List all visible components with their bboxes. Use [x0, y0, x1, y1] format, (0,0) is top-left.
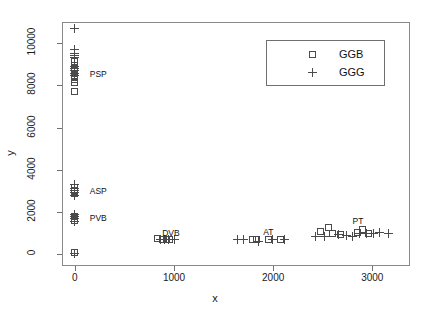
y-tick-label: 6000 [26, 103, 37, 149]
cluster-label-psp: PSP [90, 69, 107, 79]
data-point-ggg [320, 232, 329, 241]
y-tick-mark [57, 43, 62, 44]
data-point-ggb [71, 88, 78, 95]
data-point-ggg [70, 53, 79, 62]
data-point-ggg [375, 228, 384, 237]
data-point-ggg [280, 235, 289, 244]
legend: GGB GGG [266, 40, 385, 86]
y-tick-mark [57, 212, 62, 213]
y-tick-label: 2000 [26, 187, 37, 233]
y-tick-mark [57, 85, 62, 86]
y-tick-label: 4000 [26, 145, 37, 191]
square-icon [307, 46, 319, 64]
legend-label-ggg: GGG [339, 66, 365, 78]
data-point-ggg [239, 235, 248, 244]
y-tick-mark [57, 254, 62, 255]
y-tick-mark [57, 170, 62, 171]
x-tick-label: 3000 [349, 272, 395, 283]
data-point-ggg [70, 191, 79, 200]
cluster-label-pt: PT [352, 216, 363, 226]
x-axis-label: x [0, 292, 430, 304]
x-tick-mark [372, 266, 373, 271]
data-point-ggg [70, 71, 79, 80]
x-tick-label: 0 [52, 272, 98, 283]
x-tick-label: 2000 [250, 272, 296, 283]
plus-icon [307, 64, 319, 82]
y-tick-label: 10000 [26, 19, 37, 65]
x-tick-mark [174, 266, 175, 271]
x-tick-label: 1000 [151, 272, 197, 283]
cluster-label-pvb: PVB [90, 213, 107, 223]
x-tick-mark [273, 266, 274, 271]
data-point-ggg [254, 237, 263, 246]
y-tick-label: 8000 [26, 61, 37, 107]
cluster-label-dvb: DVB [162, 228, 179, 238]
data-point-ggg [70, 24, 79, 33]
y-tick-mark [57, 128, 62, 129]
data-point-ggg [70, 249, 79, 258]
scatter-plot: 0200040006000800010000 0100020003000 PSP… [0, 0, 430, 317]
data-point-ggg [384, 229, 393, 238]
data-point-ggg [311, 232, 320, 241]
cluster-label-asp: ASP [90, 186, 107, 196]
legend-entry-ggb: GGB [267, 46, 386, 64]
cluster-label-at: AT [263, 227, 273, 237]
y-tick-label: 0 [26, 230, 37, 276]
y-axis-label: y [4, 133, 16, 173]
data-point-ggg [70, 217, 79, 226]
x-tick-mark [75, 266, 76, 271]
legend-entry-ggg: GGG [267, 64, 386, 82]
legend-label-ggb: GGB [339, 48, 363, 60]
